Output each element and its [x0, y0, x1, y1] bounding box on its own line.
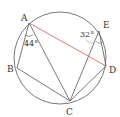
label-b: B [7, 64, 14, 74]
segment-ce [70, 31, 99, 101]
label-c: C [66, 107, 73, 117]
angle-arc-a [25, 35, 33, 37]
angle-pointer-e [86, 40, 94, 43]
angle-arc-e [96, 41, 103, 43]
angle-label-a: 44° [24, 39, 38, 48]
circle-diagram: A B C D E 44° 32° [0, 0, 120, 117]
angle-label-e: 32° [80, 30, 94, 39]
label-e: E [103, 20, 110, 30]
label-a: A [20, 13, 28, 23]
label-d: D [109, 65, 116, 75]
segment-bc [17, 68, 70, 101]
segment-cd [70, 66, 106, 101]
